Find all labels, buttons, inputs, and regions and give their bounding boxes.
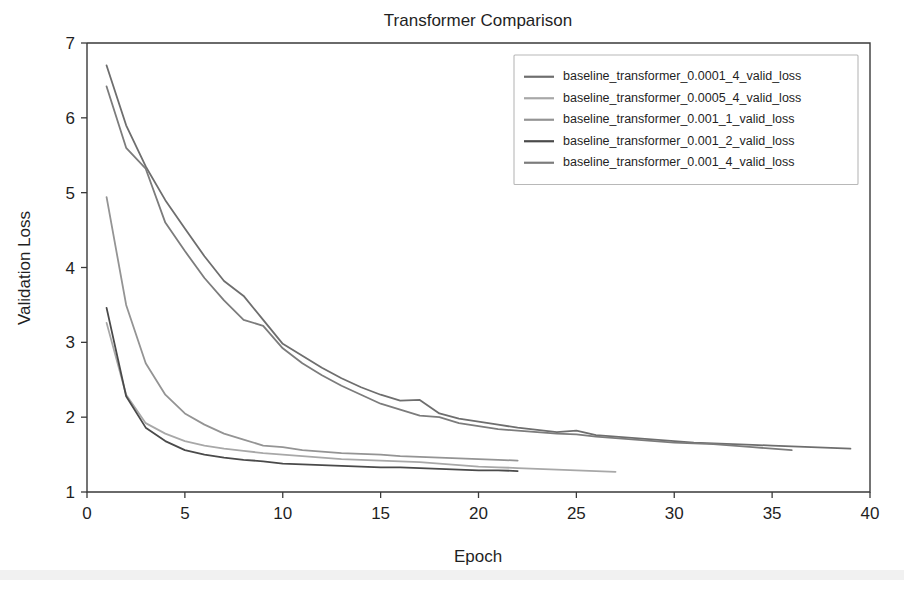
legend-label-1[interactable]: baseline_transformer_0.0005_4_valid_loss bbox=[563, 91, 801, 105]
x-tick-label: 10 bbox=[273, 504, 292, 523]
y-tick-label: 1 bbox=[66, 483, 75, 502]
legend-label-0[interactable]: baseline_transformer_0.0001_4_valid_loss bbox=[563, 69, 801, 83]
y-tick-label: 6 bbox=[66, 109, 75, 128]
legend-label-4[interactable]: baseline_transformer_0.001_4_valid_loss bbox=[563, 155, 794, 169]
x-tick-label: 15 bbox=[371, 504, 390, 523]
y-tick-label: 2 bbox=[66, 408, 75, 427]
x-tick-label: 0 bbox=[82, 504, 91, 523]
y-tick-label: 7 bbox=[66, 34, 75, 53]
x-tick-label: 25 bbox=[567, 504, 586, 523]
y-axis-label: Validation Loss bbox=[15, 211, 34, 325]
x-tick-label: 5 bbox=[180, 504, 189, 523]
chart-title: Transformer Comparison bbox=[384, 11, 572, 30]
x-tick-label: 35 bbox=[763, 504, 782, 523]
chart-legend[interactable]: baseline_transformer_0.0001_4_valid_loss… bbox=[514, 55, 858, 185]
x-tick-label: 30 bbox=[665, 504, 684, 523]
x-axis-label: Epoch bbox=[454, 547, 502, 566]
legend-label-2[interactable]: baseline_transformer_0.001_1_valid_loss bbox=[563, 112, 794, 126]
y-tick-label: 5 bbox=[66, 184, 75, 203]
y-tick-label: 4 bbox=[66, 259, 75, 278]
x-tick-label: 20 bbox=[469, 504, 488, 523]
legend-label-3[interactable]: baseline_transformer_0.001_2_valid_loss bbox=[563, 134, 794, 148]
scan-artifact bbox=[0, 570, 904, 580]
chart-canvas: Transformer Comparison 0510152025303540 … bbox=[0, 0, 904, 592]
x-tick-label: 40 bbox=[861, 504, 880, 523]
y-tick-label: 3 bbox=[66, 333, 75, 352]
chart-figure: Transformer Comparison 0510152025303540 … bbox=[0, 0, 904, 592]
